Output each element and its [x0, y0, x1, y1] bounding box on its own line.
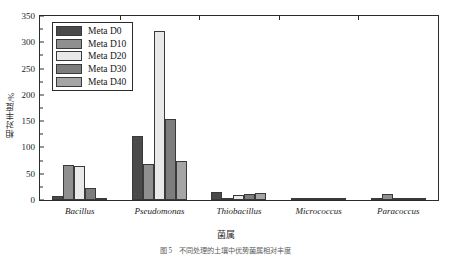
bar: [211, 192, 222, 200]
x-axis-title: 菌属: [0, 228, 451, 241]
y-tick-mark: [40, 121, 44, 122]
legend-swatch: [56, 39, 82, 49]
x-tick-label: Paracoccus: [377, 206, 420, 216]
x-tick-label: Micrococcus: [296, 206, 342, 216]
y-tick-label: 200: [22, 90, 41, 100]
bar: [302, 198, 313, 200]
y-tick-label: 350: [22, 11, 41, 21]
bar: [404, 198, 415, 200]
legend-label: Meta D40: [88, 77, 126, 87]
legend-label: Meta D30: [88, 64, 126, 74]
bar: [222, 198, 233, 200]
bar: [52, 196, 63, 200]
y-tick-minor: [40, 29, 43, 30]
x-tick-mark: [279, 16, 280, 20]
legend-item: Meta D40: [56, 75, 126, 88]
y-tick-mark: [40, 200, 44, 201]
x-tick-mark: [199, 16, 200, 20]
bar: [165, 119, 176, 200]
legend-item: Meta D0: [56, 25, 126, 38]
y-tick-mark: [40, 16, 44, 17]
y-axis-title: 相对丰度/%: [4, 60, 18, 170]
x-tick-label: Bacillus: [65, 206, 95, 216]
legend-label: Meta D0: [88, 26, 122, 36]
y-tick-mark: [40, 173, 44, 174]
bar-group-inner: [358, 16, 438, 200]
bar: [143, 164, 154, 200]
legend-swatch: [56, 26, 82, 36]
x-tick-mark: [358, 16, 359, 20]
bar: [74, 166, 85, 200]
y-tick-mark: [40, 94, 44, 95]
legend-item: Meta D20: [56, 50, 126, 63]
legend-label: Meta D20: [88, 51, 126, 61]
x-tick-label: Pseudomonas: [134, 206, 184, 216]
bar-group: Thiobacillus: [199, 16, 279, 200]
bar: [371, 198, 382, 200]
plot-area: BacillusPseudomonasThiobacillusMicrococc…: [39, 15, 439, 201]
figure-caption: 图 5 不同处理的土壤中优势菌属相对丰度: [0, 245, 451, 255]
y-tick-mark: [40, 42, 44, 43]
y-tick-mark: [40, 68, 44, 69]
bar: [291, 198, 302, 200]
bar: [255, 193, 266, 200]
y-tick-mark: [40, 147, 44, 148]
x-tick-mark: [120, 16, 121, 20]
bar-group: Micrococcus: [279, 16, 359, 200]
y-tick-minor: [40, 55, 43, 56]
y-tick-label: 0: [31, 195, 41, 205]
y-tick-label: 100: [22, 142, 41, 152]
bar: [154, 31, 165, 200]
bar: [132, 136, 143, 200]
y-tick-minor: [40, 186, 43, 187]
x-tick-label: Thiobacillus: [216, 206, 261, 216]
y-tick-label: 300: [22, 37, 41, 47]
legend-swatch: [56, 64, 82, 74]
legend-swatch: [56, 77, 82, 87]
bar: [176, 161, 187, 200]
y-tick-label: 250: [22, 64, 41, 74]
y-tick-minor: [40, 134, 43, 135]
bar: [233, 195, 244, 200]
y-tick-minor: [40, 108, 43, 109]
bar: [313, 198, 324, 200]
figure-container: 相对丰度/% BacillusPseudomonasThiobacillusMi…: [0, 0, 451, 259]
legend-label: Meta D10: [88, 39, 126, 49]
bar: [63, 165, 74, 200]
bar: [415, 198, 426, 200]
legend-swatch: [56, 51, 82, 61]
bar: [335, 198, 346, 200]
legend-item: Meta D10: [56, 38, 126, 51]
y-tick-label: 50: [26, 169, 40, 179]
legend-item: Meta D30: [56, 63, 126, 76]
chart-legend: Meta D0Meta D10Meta D20Meta D30Meta D40: [52, 22, 133, 91]
y-tick-label: 150: [22, 116, 41, 126]
bar: [393, 198, 404, 200]
y-tick-minor: [40, 160, 43, 161]
bar-group: Paracoccus: [358, 16, 438, 200]
y-tick-minor: [40, 81, 43, 82]
bar-group-inner: [199, 16, 279, 200]
bar: [85, 188, 96, 200]
bar-group-inner: [279, 16, 359, 200]
bar: [96, 198, 107, 200]
bar: [244, 194, 255, 200]
bar: [324, 198, 335, 200]
bar: [382, 194, 393, 200]
